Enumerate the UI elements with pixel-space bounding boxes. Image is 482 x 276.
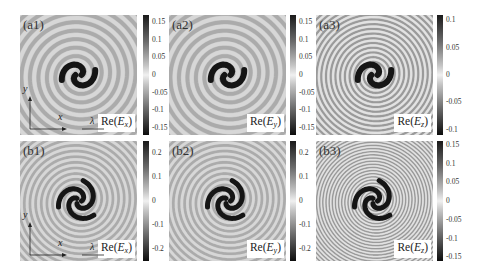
colorbar-a2 [290,15,296,135]
colorbar-tick-label: -0.05 [152,88,168,97]
colorbar-tick-label: -0.1 [152,105,164,114]
quantity-label: Re(Ey) [247,240,284,258]
colorbar-tick-label: 0 [152,70,156,79]
colorbar-tick-label: 0 [299,196,303,205]
colorbar-tick-label: 0.05 [299,52,312,61]
colorbar-tick-label: -0.15 [152,123,168,132]
x-axis-label: x [58,237,62,248]
colorbar-tick-label: -0.1 [446,125,458,134]
colorbar-tick-label: -0.1 [299,220,311,229]
colorbar-tick-label: 0.05 [446,177,459,186]
axes-indicator: yxλ [24,217,84,257]
panel-label: (b3) [319,143,341,159]
colorbar-tick-label: 0 [446,70,450,79]
colorbar-tick-label: 0.1 [446,15,455,24]
colorbar-tick-label: -0.05 [446,97,462,106]
wavelength-scale-label: λ [90,241,94,252]
field-map-panel-b3: (b3)Re(Ez) [316,141,433,261]
panel-label: (b2) [172,143,194,159]
quantity-label: Re(Ez) [394,240,431,258]
colorbar-tick-label: -0.1 [299,105,311,114]
colorbar-tick-label: 0.15 [299,17,312,26]
colorbar-a3 [437,15,443,135]
colorbar-tick-label: -0.15 [446,252,462,261]
colorbar-tick-label: -0.2 [299,244,311,253]
colorbar-tick-label: -0.05 [446,215,462,224]
quantity-label: Re(Ey) [247,114,284,132]
panel-label: (a3) [319,17,340,33]
field-map-panel-a2: (a2)Re(Ey) [169,15,286,135]
colorbar-tick-label: 0.2 [152,148,161,157]
colorbar-a1 [143,15,149,135]
colorbar-tick-label: 0.1 [446,159,455,168]
colorbar-tick-label: 0.05 [446,43,459,52]
colorbar-b1 [143,141,149,261]
colorbar-tick-label: -0.1 [446,234,458,243]
colorbar-tick-label: -0.2 [152,244,164,253]
colorbar-b2 [290,141,296,261]
colorbar-tick-label: 0 [446,196,450,205]
x-axis-label: x [58,111,62,122]
y-axis-label: y [23,209,27,220]
colorbar-tick-label: 0.05 [152,52,165,61]
colorbar-b3 [437,141,443,261]
colorbar-tick-label: 0.1 [152,35,161,44]
colorbar-tick-label: 0.2 [299,148,308,157]
colorbar-tick-label: -0.1 [152,220,164,229]
colorbar-tick-label: 0.1 [299,35,308,44]
field-map-panel-a1: (a1)Re(Ex)yxλ [20,15,137,135]
colorbar-tick-label: 0 [152,196,156,205]
colorbar-tick-label: -0.05 [299,88,315,97]
field-map-panel-b2: (b2)Re(Ey) [169,141,286,261]
colorbar-tick-label: 0.1 [152,172,161,181]
panel-label: (a1) [23,17,44,33]
colorbar-tick-label: 0.15 [152,17,165,26]
wavelength-scale-label: λ [90,115,94,126]
panel-label: (b1) [23,143,45,159]
axes-indicator: yxλ [24,91,84,131]
colorbar-tick-label: -0.15 [299,123,315,132]
colorbar-tick-label: 0.1 [299,172,308,181]
colorbar-tick-label: 0 [299,70,303,79]
quantity-label: Re(Ez) [394,114,431,132]
y-axis-label: y [23,83,27,94]
colorbar-tick-label: 0.15 [446,140,459,149]
field-map-panel-a3: (a3)Re(Ez) [316,15,433,135]
panel-label: (a2) [172,17,193,33]
field-map-panel-b1: (b1)Re(Ex)yxλ [20,141,137,261]
